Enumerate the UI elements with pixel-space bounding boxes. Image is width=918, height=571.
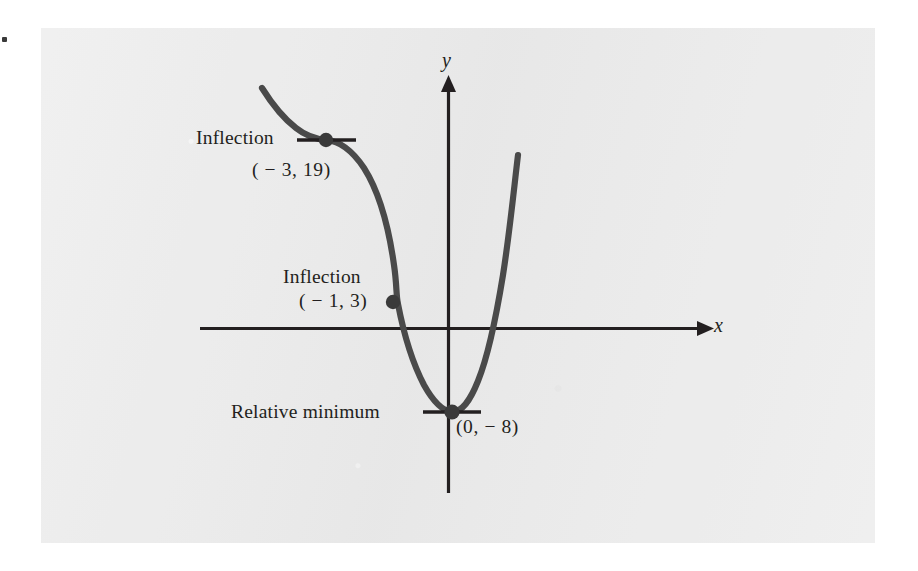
function-curve — [262, 88, 518, 412]
function-curve-group — [262, 88, 518, 412]
inflection-2-coordinates: ( − 1, 3) — [299, 291, 367, 311]
inflection-1-point-dot — [319, 133, 333, 147]
inflection-2-point-dot — [386, 295, 400, 309]
relative-minimum-label: Relative minimum — [231, 402, 380, 422]
annotation-inflection-2-marker — [386, 295, 400, 309]
x-axis-arrowhead — [697, 321, 714, 336]
inflection-1-label: Inflection — [196, 128, 274, 148]
plot-canvas — [0, 0, 918, 571]
y-axis-arrowhead — [441, 75, 456, 92]
y-axis-label: y — [442, 50, 451, 70]
relative-minimum-coordinates: (0, − 8) — [456, 417, 519, 437]
inflection-2-label: Inflection — [283, 267, 361, 287]
inflection-1-coordinates: ( − 3, 19) — [252, 160, 331, 180]
x-axis-label: x — [714, 315, 723, 335]
figure-page: y x Inflection ( − 3, 19) Inflection ( −… — [0, 0, 918, 571]
